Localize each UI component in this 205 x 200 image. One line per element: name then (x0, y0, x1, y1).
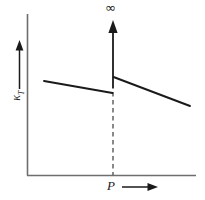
infinity-label: ∞ (105, 1, 116, 14)
y-axis-label: κT (10, 74, 25, 118)
x-axis-label: P (107, 179, 115, 192)
x-axis-direction-arrow-head (148, 183, 159, 191)
plot-area (0, 0, 205, 200)
y-axis-label-subscript: T (17, 91, 26, 95)
divergence-arrow-head (108, 20, 117, 33)
y-axis-label-symbol: κ (9, 95, 23, 101)
y-axis-direction-arrow-head (16, 40, 24, 51)
curve-branch-low-pressure (44, 81, 113, 93)
compressibility-vs-pressure-figure: ∞ P κT (0, 0, 205, 200)
curve-branch-high-pressure (114, 77, 191, 106)
